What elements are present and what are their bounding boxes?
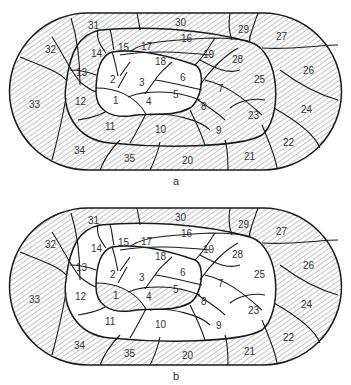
panel-a-caption: a [173,175,180,187]
region-label: 22 [283,137,295,148]
region-label: 24 [301,299,313,310]
region-label: 10 [155,319,167,330]
region-label: 14 [91,243,103,254]
region-label: 23 [248,305,260,316]
region-label: 6 [180,267,186,278]
region-label: 9 [216,125,222,136]
region-label: 17 [141,236,153,247]
region-label: 3 [139,272,145,283]
region-label: 10 [155,124,167,135]
region-label: 2 [110,269,116,280]
region-label: 16 [181,228,193,239]
region-label: 13 [76,67,88,78]
region-label: 28 [232,54,244,65]
region-label: 34 [74,340,86,351]
region-label: 15 [118,42,130,53]
region-label: 29 [238,24,250,35]
region-label: 23 [248,110,260,121]
region-label: 11 [105,316,116,327]
panel-a: 1 2 3 4 5 6 7 8 9 10 11 12 13 14 15 16 1… [10,13,342,187]
region-label: 7 [218,83,224,94]
region-label: 2 [110,74,116,85]
region-label: 18 [155,251,167,262]
region-label: 18 [155,56,167,67]
region-label: 1 [113,95,119,106]
figure-canvas: 1 2 3 4 5 6 7 8 9 10 11 12 13 14 15 16 1… [0,0,351,385]
region-label: 20 [182,350,194,361]
region-label: 21 [244,151,256,162]
region-label: 4 [146,291,152,302]
region-label: 27 [276,226,288,237]
panel-b: 1 2 3 4 5 6 7 8 9 10 11 12 13 14 15 16 1… [10,208,342,382]
region-label: 31 [88,20,100,31]
region-label: 14 [91,48,103,59]
region-label: 19 [203,244,215,255]
panel-b-caption: b [173,370,179,382]
region-label: 31 [88,215,100,226]
region-label: 1 [113,290,119,301]
region-label: 28 [232,249,244,260]
region-label: 33 [29,99,41,110]
region-label: 15 [118,237,130,248]
region-label: 30 [175,212,187,223]
region-label: 11 [105,121,116,132]
region-label: 26 [303,65,315,76]
region-label: 5 [173,89,179,100]
region-label: 30 [175,17,187,28]
region-label: 24 [301,104,313,115]
region-label: 4 [146,96,152,107]
region-label: 27 [276,31,288,42]
region-label: 29 [238,219,250,230]
region-label: 20 [182,155,194,166]
region-label: 13 [76,262,88,273]
region-label: 25 [254,74,266,85]
region-label: 25 [254,269,266,280]
region-label: 33 [29,294,41,305]
region-label: 17 [141,41,153,52]
region-label: 32 [45,44,57,55]
region-label: 12 [75,96,87,107]
region-label: 26 [303,260,315,271]
region-label: 22 [283,332,295,343]
region-label: 8 [201,296,207,307]
region-label: 7 [218,278,224,289]
region-label: 21 [244,346,256,357]
region-label: 34 [74,145,86,156]
region-label: 16 [181,33,193,44]
region-label: 5 [173,284,179,295]
region-label: 19 [203,49,215,60]
region-label: 9 [216,320,222,331]
region-label: 35 [124,348,136,359]
region-label: 35 [124,153,136,164]
region-label: 12 [75,291,87,302]
region-label: 3 [139,77,145,88]
region-label: 8 [201,101,207,112]
region-label: 6 [180,72,186,83]
panel-b-white-band [65,223,275,341]
region-label: 32 [45,239,57,250]
